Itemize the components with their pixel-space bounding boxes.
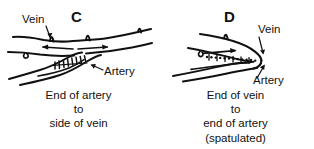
artery-vessel-d — [173, 62, 257, 82]
vein-leader-arrow-d — [259, 37, 265, 55]
caption-d-line-4: (spatulated) — [157, 131, 314, 145]
caption-d-line-1: End of vein — [157, 88, 314, 102]
caption-c-line-3: side of vein — [0, 116, 157, 130]
caption-c: End of artery to side of vein — [0, 88, 157, 131]
label-artery-d: Artery — [253, 74, 284, 86]
artery-leader-arrow-c — [91, 64, 103, 70]
caption-c-line-1: End of artery — [0, 88, 157, 102]
figure-arteriovenous-anastomosis: C — [0, 0, 314, 149]
label-vein-d: Vein — [258, 23, 280, 35]
vein-vessel-upper-wall-c — [13, 29, 151, 42]
caption-d-line-3: end of artery — [157, 116, 314, 130]
caption-d: End of vein to end of artery (spatulated… — [157, 88, 314, 145]
flow-arrows-c — [42, 45, 109, 50]
panel-c: C — [0, 0, 157, 149]
caption-c-line-2: to — [0, 102, 157, 116]
caption-d-line-2: to — [157, 102, 314, 116]
label-vein-c: Vein — [22, 13, 44, 25]
vein-vessel-inner-limb-d — [188, 48, 249, 61]
flow-arrow-d — [203, 48, 237, 53]
label-artery-c: Artery — [104, 65, 135, 77]
panel-d: D — [157, 0, 314, 149]
